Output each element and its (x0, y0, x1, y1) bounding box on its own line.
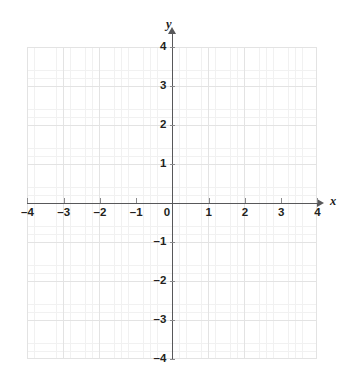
y-axis-line (172, 33, 174, 359)
y-tick-label: –2 (154, 276, 167, 288)
y-tick-mark (170, 47, 175, 48)
x-tick-mark (281, 198, 282, 203)
y-tick-mark (170, 86, 175, 87)
y-tick-mark (170, 320, 175, 321)
x-tick-label: –1 (130, 207, 143, 219)
x-tick-mark (317, 198, 318, 203)
y-tick-label: 4 (160, 42, 166, 54)
y-tick-label: –1 (154, 237, 167, 249)
y-tick-label: 3 (160, 81, 166, 93)
x-tick-label: –3 (57, 207, 70, 219)
y-tick-mark (170, 242, 175, 243)
y-tick-mark (170, 359, 175, 360)
x-tick-mark (64, 198, 65, 203)
y-axis-label: y (166, 18, 172, 31)
y-tick-mark (170, 125, 175, 126)
x-tick-label: –2 (93, 207, 106, 219)
x-tick-label: –4 (21, 207, 34, 219)
x-axis-label: x (330, 195, 336, 208)
y-tick-label: –3 (154, 315, 167, 327)
x-tick-label: 0 (164, 207, 170, 219)
y-tick-label: 1 (160, 159, 166, 171)
y-tick-label: –4 (154, 354, 167, 366)
x-tick-label: 4 (314, 207, 320, 219)
x-tick-label: 3 (278, 207, 284, 219)
x-tick-mark (100, 198, 101, 203)
x-tick-mark (136, 198, 137, 203)
y-tick-mark (170, 281, 175, 282)
x-tick-label: 2 (242, 207, 248, 219)
x-tick-label: 1 (205, 207, 211, 219)
y-tick-label: 2 (160, 120, 166, 132)
x-tick-mark (27, 198, 28, 203)
coordinate-plane-figure: x y –4–3–2–101234 4321–1–2–3–4 (0, 0, 351, 377)
x-tick-mark (209, 198, 210, 203)
x-tick-mark (245, 198, 246, 203)
y-tick-mark (170, 164, 175, 165)
